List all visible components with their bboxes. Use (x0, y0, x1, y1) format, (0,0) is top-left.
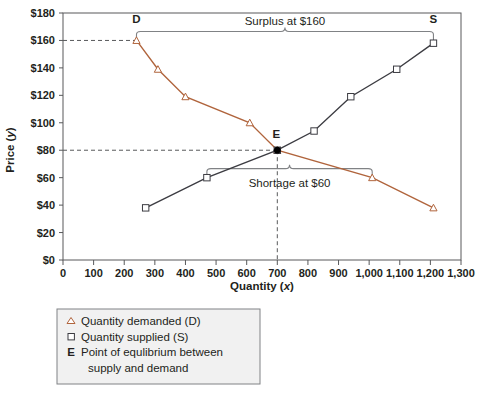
equilibrium-marker (274, 147, 281, 154)
supply-data-point (311, 128, 317, 134)
shortage-bracket-label: Shortage at $60 (249, 177, 331, 189)
x-axis-tick-label: 700 (268, 267, 286, 279)
legend-equilibrium-key: E (67, 346, 75, 358)
y-axis-title: Price (y) (4, 127, 16, 173)
y-axis-tick-label: $40 (37, 199, 55, 211)
x-axis-tick-label: 300 (146, 267, 164, 279)
supply-curve-tag: S (430, 13, 438, 25)
legend-item-label: Quantity demanded (D) (81, 315, 201, 327)
x-axis-tick-label: 1,100 (386, 267, 414, 279)
chart-canvas: $0$20$40$60$80$100$120$140$160$180 01002… (0, 0, 480, 393)
y-axis-tick-label: $60 (37, 172, 55, 184)
y-axis-tick-label: $0 (43, 254, 55, 266)
x-axis-tick-label: 400 (176, 267, 194, 279)
x-axis-tick-label: 900 (329, 267, 347, 279)
legend-item-label-line2: supply and demand (88, 362, 188, 374)
demand-curve-tag: D (132, 13, 140, 25)
legend-item-label: Point of equlibrium between (81, 346, 223, 358)
supply-data-point (204, 174, 210, 180)
x-axis-tick-label: 1,200 (417, 267, 445, 279)
y-axis-tick-label: $180 (31, 7, 55, 19)
supply-demand-chart: $0$20$40$60$80$100$120$140$160$180 01002… (0, 0, 480, 393)
y-axis-tick-label: $140 (31, 62, 55, 74)
x-axis-title: Quantity (x) (230, 280, 294, 292)
supply-data-point (394, 66, 400, 72)
y-axis-tick-label: $160 (31, 34, 55, 46)
equilibrium-point (274, 147, 281, 154)
supply-data-point (430, 40, 436, 46)
y-axis: $0$20$40$60$80$100$120$140$160$180 (31, 7, 63, 266)
legend-item-label: Quantity supplied (S) (81, 331, 189, 343)
legend-square-icon (68, 334, 74, 340)
surplus-bracket-label: Surplus at $160 (245, 15, 326, 27)
x-axis-tick-label: 600 (238, 267, 256, 279)
equilibrium-tag: E (272, 128, 280, 140)
x-axis-tick-label: 500 (207, 267, 225, 279)
x-axis-tick-label: 200 (115, 267, 133, 279)
x-axis-tick-label: 800 (299, 267, 317, 279)
x-axis: 01002003004005006007008009001,0001,1001,… (60, 260, 475, 279)
supply-data-point (348, 94, 354, 100)
plot-area-border (63, 13, 461, 260)
legend: Quantity demanded (D)Quantity supplied (… (57, 309, 260, 384)
x-axis-tick-label: 0 (60, 267, 66, 279)
x-axis-tick-label: 1,300 (447, 267, 475, 279)
y-axis-tick-label: $120 (31, 89, 55, 101)
supply-data-point (142, 205, 148, 211)
x-axis-tick-label: 1,000 (355, 267, 383, 279)
y-axis-tick-label: $100 (31, 117, 55, 129)
x-axis-tick-label: 100 (84, 267, 102, 279)
y-axis-tick-label: $20 (37, 227, 55, 239)
y-axis-tick-label: $80 (37, 144, 55, 156)
